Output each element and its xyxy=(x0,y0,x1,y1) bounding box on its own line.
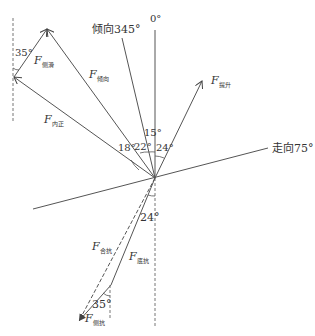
strike-label: 走向75° xyxy=(272,141,314,155)
angle-35-bottom-label: 35° xyxy=(92,298,112,311)
angle-15-label: 15° xyxy=(144,127,162,138)
north-label: 0° xyxy=(150,13,161,24)
angle-arc-22 xyxy=(140,152,149,153)
base-resist-force-label: F底抗 xyxy=(128,250,149,265)
angle-24-upper-label: 24° xyxy=(156,142,174,153)
angle-arc-35-top xyxy=(13,68,19,70)
inner-force-vector xyxy=(14,77,155,178)
lateral-slide-force-label: F侧滑 xyxy=(33,54,54,69)
lift-force-vector xyxy=(155,81,202,178)
combined-resist-dashed-vector xyxy=(79,178,155,321)
angle-arc-24-upper xyxy=(155,156,164,158)
inner-force-label: F内正 xyxy=(43,113,64,128)
base-resist-force-vector xyxy=(111,178,155,285)
angle-22-label: 22° xyxy=(134,141,152,152)
dip-label: 倾向345° xyxy=(92,22,141,36)
lift-force-label: F提升 xyxy=(210,74,231,89)
angle-24-lower-label: 24° xyxy=(140,211,160,224)
dip-force-label: F倾向 xyxy=(88,68,109,83)
dip-line xyxy=(122,38,155,178)
force-diagram: 0° 倾向345° 走向75° 35° 15° 18° 22° 24° 24° … xyxy=(0,0,315,336)
lateral-resist-force-label: F侧抗 xyxy=(84,312,105,327)
dip-force-vector xyxy=(47,29,155,178)
angle-35-top-label: 35° xyxy=(15,47,33,58)
angle-arc-35-bottom xyxy=(103,293,110,296)
combined-resist-force-label: F合抗 xyxy=(91,240,112,255)
angle-arc-18 xyxy=(131,160,139,170)
angle-arc-24-lower xyxy=(148,195,155,196)
